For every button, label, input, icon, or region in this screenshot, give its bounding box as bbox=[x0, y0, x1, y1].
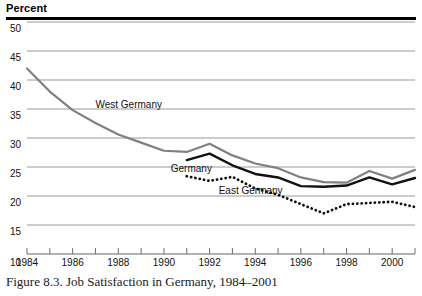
x-tick-label: 1998 bbox=[335, 257, 358, 268]
line-chart: 101520253035404550 198419861988199019921… bbox=[0, 0, 422, 272]
y-tick-labels: 101520253035404550 bbox=[10, 23, 22, 268]
y-tick-label: 40 bbox=[10, 81, 22, 92]
x-tick-label: 1996 bbox=[290, 257, 313, 268]
top-rule bbox=[6, 17, 416, 20]
y-axis-title: Percent bbox=[6, 2, 47, 14]
x-tick-label: 1992 bbox=[198, 257, 221, 268]
y-tick-label: 25 bbox=[10, 168, 22, 179]
y-tick-label: 50 bbox=[10, 23, 22, 34]
series-annotations: West GermanyGermanyEast Germany bbox=[95, 99, 282, 195]
y-tick-label: 15 bbox=[10, 226, 22, 237]
x-tick-label: 1988 bbox=[107, 257, 130, 268]
x-tick-label: 1984 bbox=[16, 257, 39, 268]
series-label-germany: Germany bbox=[171, 163, 212, 174]
series-line-germany bbox=[187, 154, 415, 187]
x-tick-label: 1990 bbox=[153, 257, 176, 268]
figure-container: Percent 101520253035404550 1984198619881… bbox=[0, 0, 422, 296]
series-line-west-germany bbox=[27, 68, 415, 182]
x-tick-marks bbox=[27, 248, 415, 254]
figure-caption: Figure 8.3. Job Satisfaction in Germany,… bbox=[6, 274, 278, 290]
y-tick-label: 45 bbox=[10, 52, 22, 63]
x-tick-labels: 198419861988199019921994199619982000 bbox=[16, 257, 404, 268]
x-tick-label: 1986 bbox=[62, 257, 85, 268]
x-tick-label: 1994 bbox=[244, 257, 267, 268]
series-label-west-germany: West Germany bbox=[95, 99, 161, 110]
x-tick-label: 2000 bbox=[381, 257, 404, 268]
series-label-east-germany: East Germany bbox=[219, 185, 283, 196]
y-tick-label: 30 bbox=[10, 139, 22, 150]
y-tick-label: 20 bbox=[10, 197, 22, 208]
y-tick-label: 35 bbox=[10, 110, 22, 121]
